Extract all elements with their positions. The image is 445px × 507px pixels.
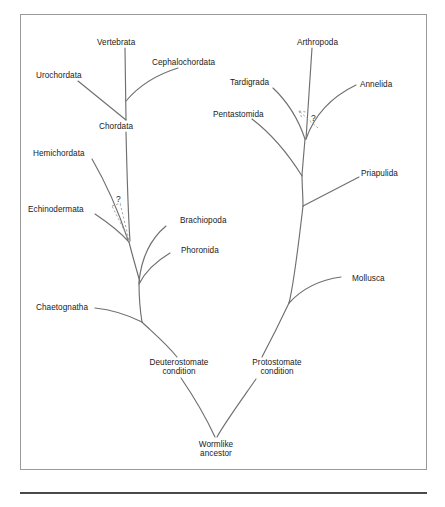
taxon-label-arthropoda: Arthropoda [297,38,338,47]
node-label-protostomate-condition: Protostomate condition [232,358,322,377]
taxon-label-priapulida: Priapulida [361,169,398,178]
taxon-label-brachiopoda: Brachiopoda [180,216,227,225]
taxon-label-urochordata: Urochordata [36,71,82,80]
deuterostomate-line-2: condition [162,367,195,376]
uncertainty-question-mark-right: ? [311,113,316,123]
taxon-label-pentastomida: Pentastomida [213,110,264,119]
protostomate-line-1: Protostomate [252,358,301,367]
wormlike-ancestor-line-2: ancestor [200,449,232,458]
taxon-label-vertebrata: Vertebrata [97,38,135,47]
uncertainty-question-mark-left: ? [116,194,121,204]
bottom-divider-rule [20,492,427,494]
taxon-label-tardigrada: Tardigrada [230,78,269,87]
taxon-label-phoronida: Phoronida [181,246,219,255]
deuterostomate-line-1: Deuterostomate [150,358,209,367]
node-label-wormlike-ancestor: Wormlike ancestor [176,440,256,459]
node-label-deuterostomate-condition: Deuterostomate condition [130,358,228,377]
taxon-label-cephalochordata: Cephalochordata [152,58,215,67]
wormlike-ancestor-line-1: Wormlike [199,440,233,449]
taxon-label-chaetognatha: Chaetognatha [36,303,88,312]
protostomate-line-2: condition [260,367,293,376]
taxon-label-hemichordata: Hemichordata [33,149,85,158]
taxon-label-annelida: Annelida [360,80,392,89]
taxon-label-mollusca: Mollusca [352,274,385,283]
taxon-label-echinodermata: Echinodermata [28,205,84,214]
figure-root: Vertebrata Cephalochordata Urochordata C… [0,0,445,507]
node-label-chordata: Chordata [99,122,133,131]
